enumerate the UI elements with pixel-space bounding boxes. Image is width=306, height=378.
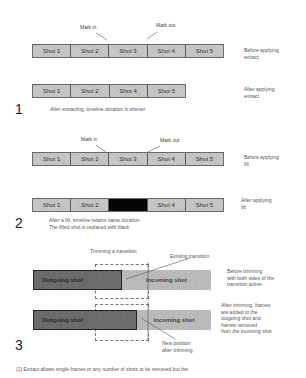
mark-in-arrow-icon [96, 33, 107, 40]
mark-in-arrow-icon [96, 145, 106, 152]
arrows-overlay [0, 0, 306, 378]
mark-out-arrow-icon [148, 146, 160, 152]
mark-out-arrow-icon [147, 32, 157, 39]
existing-transition-pointer-icon [126, 258, 190, 279]
new-position-pointer-icon [141, 318, 175, 339]
